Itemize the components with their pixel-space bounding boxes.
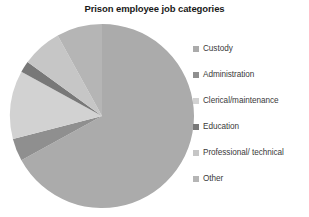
legend-item[interactable]: Education	[193, 114, 309, 140]
legend-item-label: Clerical/maintenance	[203, 96, 278, 106]
legend-swatch-icon	[193, 124, 199, 130]
legend-item-label: Education	[203, 122, 239, 132]
legend-swatch-icon	[193, 98, 199, 104]
legend-item[interactable]: Clerical/maintenance	[193, 88, 309, 114]
legend-item-label: Other	[203, 174, 223, 184]
legend-swatch-icon	[193, 176, 199, 182]
legend-item[interactable]: Administration	[193, 62, 309, 88]
legend-item[interactable]: Custody	[193, 36, 309, 62]
legend-item-label: Custody	[203, 44, 233, 54]
pie-plot-area	[6, 20, 198, 212]
legend-item-label: Professional/ technical	[203, 148, 284, 158]
legend-item[interactable]: Other	[193, 166, 309, 192]
legend-swatch-icon	[193, 72, 199, 78]
legend-item[interactable]: Professional/ technical	[193, 140, 309, 166]
chart-legend: CustodyAdministrationClerical/maintenanc…	[193, 36, 309, 192]
legend-swatch-icon	[193, 150, 199, 156]
legend-swatch-icon	[193, 46, 199, 52]
pie-chart-figure: Prison employee job categories CustodyAd…	[0, 0, 309, 217]
pie-slice-group	[10, 24, 194, 208]
legend-item-label: Administration	[203, 70, 254, 80]
pie-svg	[6, 20, 198, 212]
chart-title: Prison employee job categories	[0, 3, 309, 14]
